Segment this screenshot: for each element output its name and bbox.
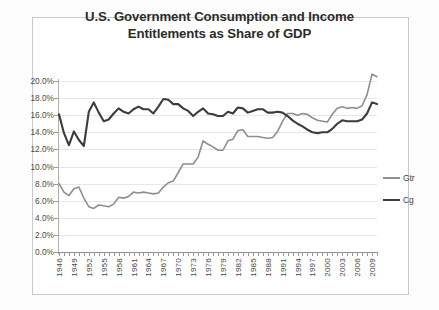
x-axis-tick-label: 1967 xyxy=(159,258,168,277)
legend-label-cg: Cg xyxy=(403,195,414,205)
x-axis-tick-mark xyxy=(288,252,289,256)
x-axis-tick-label: 1979 xyxy=(219,258,228,277)
gridline xyxy=(59,167,377,168)
x-axis-tick-mark xyxy=(238,252,239,256)
x-axis-tick-mark xyxy=(99,252,100,256)
x-axis-tick-label: 2009 xyxy=(368,258,377,277)
x-axis-tick-mark xyxy=(178,252,179,256)
gridline xyxy=(59,132,377,133)
x-axis-tick-mark xyxy=(243,252,244,256)
chart-title-line-2: Entitlements as Share of GDP xyxy=(0,25,439,42)
x-axis-tick-mark xyxy=(188,252,189,256)
x-axis-tick-mark xyxy=(183,252,184,256)
x-axis-tick-mark xyxy=(59,252,60,256)
x-axis-tick-mark xyxy=(223,252,224,256)
x-axis-tick-mark xyxy=(263,252,264,256)
gridline xyxy=(59,98,377,99)
x-axis-tick-mark xyxy=(119,252,120,256)
value-axis xyxy=(58,79,59,254)
x-axis-tick-mark xyxy=(163,252,164,256)
x-axis-tick-mark xyxy=(253,252,254,256)
y-axis-tick-mark xyxy=(54,167,58,168)
y-axis-tick-label: 6.0% xyxy=(10,196,54,206)
y-axis-tick-mark xyxy=(54,149,58,150)
x-axis-tick-mark xyxy=(278,252,279,256)
x-axis-tick-mark xyxy=(248,252,249,256)
x-axis-tick-label: 2000 xyxy=(323,258,332,277)
x-axis-tick-label: 1988 xyxy=(264,258,273,277)
x-axis-tick-mark xyxy=(69,252,70,256)
x-axis-tick-label: 1964 xyxy=(144,258,153,277)
gridline xyxy=(59,235,377,236)
x-axis-tick-label: 1982 xyxy=(234,258,243,277)
x-axis-tick-mark xyxy=(143,252,144,256)
legend-label-gtr: Gtr xyxy=(403,173,415,183)
chart-screenshot: U.S. Government Consumption and Income E… xyxy=(0,0,439,310)
x-axis-tick-mark xyxy=(228,252,229,256)
x-axis-tick-mark xyxy=(307,252,308,256)
y-axis-tick-mark xyxy=(54,201,58,202)
x-axis-tick-label: 1970 xyxy=(174,258,183,277)
x-axis-tick-label: 1994 xyxy=(294,258,303,277)
chart-legend: GtrCg xyxy=(383,167,433,211)
x-axis-tick-mark xyxy=(173,252,174,256)
x-axis-tick-mark xyxy=(352,252,353,256)
y-axis-tick-mark xyxy=(54,115,58,116)
x-axis-tick-label: 1949 xyxy=(70,258,79,277)
x-axis-tick-mark xyxy=(213,252,214,256)
x-axis-tick-mark xyxy=(298,252,299,256)
x-axis-tick-mark xyxy=(94,252,95,256)
y-axis-tick-label: 18.0% xyxy=(10,93,54,103)
x-axis-tick-mark xyxy=(84,252,85,256)
y-axis-tick-label: 2.0% xyxy=(10,230,54,240)
x-axis-tick-mark xyxy=(293,252,294,256)
x-axis-tick-mark xyxy=(283,252,284,256)
y-axis-tick-mark xyxy=(54,252,58,253)
x-axis-tick-mark xyxy=(139,252,140,256)
y-axis-tick-label: 20.0% xyxy=(10,76,54,86)
x-axis-tick-mark xyxy=(198,252,199,256)
x-axis-tick-mark xyxy=(268,252,269,256)
x-axis-tick-label: 1976 xyxy=(204,258,213,277)
x-axis-tick-label: 1952 xyxy=(85,258,94,277)
x-axis-tick-mark xyxy=(317,252,318,256)
y-axis-tick-label: 14.0% xyxy=(10,127,54,137)
x-axis-tick-mark xyxy=(168,252,169,256)
y-axis-tick-mark xyxy=(54,98,58,99)
x-axis-tick-mark xyxy=(362,252,363,256)
y-axis-tick-mark xyxy=(54,235,58,236)
y-axis-tick-label: 4.0% xyxy=(10,213,54,223)
x-axis-tick-label: 1991 xyxy=(279,258,288,277)
x-axis-tick-mark xyxy=(203,252,204,256)
y-axis-tick-labels: 20.0%18.0%16.0%14.0%12.0%10.0%8.0%6.0%4.… xyxy=(6,0,54,310)
x-axis-tick-mark xyxy=(332,252,333,256)
x-axis-tick-mark xyxy=(74,252,75,256)
y-axis-tick-label: 0.0% xyxy=(10,247,54,257)
legend-item-gtr[interactable]: Gtr xyxy=(383,167,433,189)
chart-title-line-1: U.S. Government Consumption and Income xyxy=(0,8,439,25)
x-axis-tick-label: 2006 xyxy=(353,258,362,277)
y-axis-tick-label: 12.0% xyxy=(10,144,54,154)
x-axis-tick-mark xyxy=(357,252,358,256)
y-axis-tick-label: 8.0% xyxy=(10,179,54,189)
x-axis-tick-mark xyxy=(208,252,209,256)
x-axis-tick-mark xyxy=(312,252,313,256)
x-axis-tick-mark xyxy=(367,252,368,256)
x-axis-tick-mark xyxy=(114,252,115,256)
x-axis-tick-mark xyxy=(104,252,105,256)
x-axis-tick-label: 1955 xyxy=(100,258,109,277)
x-axis-tick-label: 2003 xyxy=(338,258,347,277)
y-axis-tick-label: 10.0% xyxy=(10,162,54,172)
gridline xyxy=(59,115,377,116)
x-axis-tick-mark xyxy=(129,252,130,256)
x-axis-tick-label: 1946 xyxy=(55,258,64,277)
gridline xyxy=(59,201,377,202)
y-axis-tick-mark xyxy=(54,184,58,185)
x-axis-tick-mark xyxy=(377,252,378,256)
gridline xyxy=(59,218,377,219)
legend-item-cg[interactable]: Cg xyxy=(383,189,433,211)
x-axis-tick-mark xyxy=(258,252,259,256)
x-axis-tick-mark xyxy=(89,252,90,256)
x-axis-tick-mark xyxy=(347,252,348,256)
x-axis-tick-label: 1985 xyxy=(249,258,258,277)
